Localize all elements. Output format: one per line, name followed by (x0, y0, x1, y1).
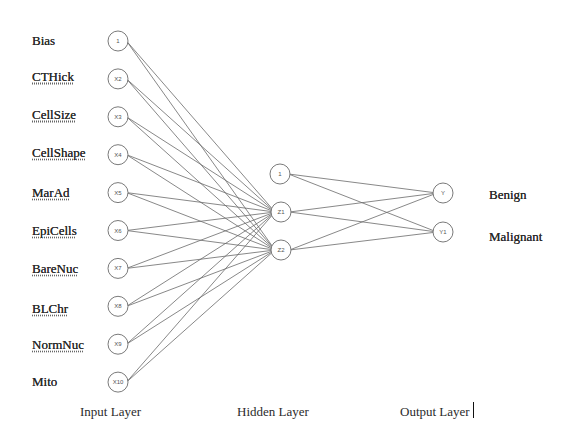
edge-h1-Y1 (289, 174, 438, 232)
input-node-x4: X4 (108, 145, 128, 165)
edge-X9-Z1 (127, 212, 276, 344)
output-node-y1: Y1 (433, 222, 453, 242)
node-id-label: X3 (114, 114, 122, 120)
input-label-barenuc: BareNuc (32, 261, 78, 277)
edge-X10-Z1 (127, 212, 276, 382)
input-node-x5: X5 (108, 183, 128, 203)
edge-X3-Z1 (127, 117, 276, 212)
input-node-x8: X8 (108, 296, 128, 316)
output-label-malignant: Malignant (489, 229, 542, 245)
edge-X4-Z1 (127, 155, 276, 212)
output-layer-title[interactable]: Output Layer (400, 404, 470, 420)
input-node-x10: X10 (108, 372, 128, 392)
node-id-label: Z2 (277, 247, 285, 253)
input-label-bias: Bias (32, 33, 55, 49)
input-layer-title: Input Layer (80, 404, 141, 420)
input-node-x9: X9 (108, 334, 128, 354)
node-id-label: Z1 (277, 209, 285, 215)
node-id-label: X10 (113, 379, 124, 385)
hidden-node-1: 1 (270, 164, 290, 184)
input-label-mito: Mito (32, 374, 57, 390)
hidden-layer-title: Hidden Layer (237, 404, 309, 420)
input-label-cellsize: CellSize (32, 107, 76, 123)
node-id-label: X5 (114, 190, 122, 196)
hidden-node-z2: Z2 (271, 240, 291, 260)
input-node-x7: X7 (108, 258, 128, 278)
input-node-x6: X6 (108, 221, 128, 241)
edge-X2-Z1 (127, 79, 276, 212)
node-id-label: X7 (114, 265, 122, 271)
nodes: 1X2X3X4X5X6X7X8X9X101Z1Z2YY1 (108, 31, 453, 392)
edge-X5-Z1 (127, 193, 276, 212)
input-node-1: 1 (108, 31, 128, 51)
input-label-blchr: BLChr (32, 301, 68, 317)
edge-X8-Z1 (127, 212, 276, 306)
node-id-label: X8 (114, 303, 122, 309)
edge-hZ1-Y1 (290, 212, 438, 232)
input-label-epicells: EpiCells (32, 223, 77, 239)
node-id-label: X2 (114, 76, 122, 82)
edge-hZ2-Y1 (290, 232, 438, 250)
node-id-label: Y (441, 190, 445, 196)
input-label-cellshape: CellShape (32, 145, 85, 161)
output-node-y: Y (433, 183, 453, 203)
node-id-label: X9 (114, 341, 122, 347)
node-id-label: Y1 (439, 229, 447, 235)
neural-network-diagram: 1X2X3X4X5X6X7X8X9X101Z1Z2YY1 (0, 0, 582, 438)
edge-h1-Y (289, 174, 438, 193)
input-label-cthick: CTHick (32, 69, 74, 85)
edge-X6-Z1 (127, 212, 276, 231)
node-id-label: X4 (114, 152, 122, 158)
edge-hZ1-Y (290, 193, 438, 212)
text-cursor (473, 402, 474, 418)
edge-hZ2-Y (290, 193, 438, 250)
edge-X10-Z2 (127, 250, 276, 382)
hidden-node-z1: Z1 (271, 202, 291, 222)
input-label-normnuc: NormNuc (32, 337, 84, 353)
edge-X7-Z1 (127, 212, 276, 268)
input-label-marad: MarAd (32, 185, 70, 201)
node-id-label: X6 (114, 228, 122, 234)
output-label-benign: Benign (489, 187, 527, 203)
edge-1-Z1 (127, 41, 276, 212)
input-node-x2: X2 (108, 69, 128, 89)
input-node-x3: X3 (108, 107, 128, 127)
